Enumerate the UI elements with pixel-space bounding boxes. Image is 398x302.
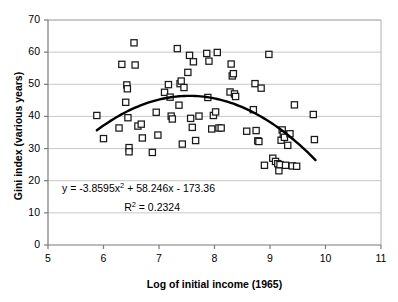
data-point [126, 149, 132, 155]
data-point [176, 102, 182, 108]
data-point [155, 132, 161, 138]
data-point [252, 81, 258, 87]
data-point [213, 109, 219, 115]
data-point [204, 50, 210, 56]
data-point [174, 46, 180, 52]
data-point [285, 142, 291, 148]
data-point [230, 71, 236, 77]
data-point [206, 58, 212, 64]
data-point [258, 85, 264, 91]
data-point [131, 40, 137, 46]
data-point [189, 124, 195, 130]
data-point [153, 109, 159, 115]
data-point [125, 115, 131, 121]
data-point [94, 112, 100, 118]
data-point [185, 69, 191, 75]
data-point [119, 61, 125, 67]
data-point [209, 126, 215, 132]
data-point [138, 121, 144, 127]
data-point [193, 137, 199, 143]
data-point [218, 125, 224, 131]
data-point [214, 49, 220, 55]
data-point [291, 102, 297, 108]
data-point [100, 136, 106, 142]
data-point [256, 138, 262, 144]
data-point [165, 82, 171, 88]
data-point [178, 78, 184, 84]
data-point [139, 135, 145, 141]
scatter-chart: Gini index (various years) Log of initia… [0, 0, 398, 302]
data-point [132, 62, 138, 68]
data-point [116, 125, 122, 131]
data-point [276, 168, 282, 174]
trendline-equation: y = -3.8595x2 + 58.246x - 173.36 [62, 181, 215, 195]
r-squared-value: R2 = 0.2324 [124, 200, 180, 214]
data-point [266, 51, 272, 57]
data-point [124, 86, 130, 92]
data-point [179, 141, 185, 147]
data-point [310, 111, 316, 117]
data-point [123, 99, 129, 105]
data-point [232, 93, 238, 99]
data-point [244, 128, 250, 134]
data-point [282, 162, 288, 168]
data-point [261, 162, 267, 168]
data-point [169, 116, 175, 122]
equation-annotation: y = -3.8595x2 + 58.246x - 173.36 R2 = 0.… [62, 181, 215, 214]
data-point [181, 84, 187, 90]
data-point [253, 127, 259, 133]
data-point [190, 59, 196, 65]
data-point [186, 52, 192, 58]
data-point [196, 113, 202, 119]
data-point [188, 115, 194, 121]
data-point-group [94, 40, 318, 174]
data-point [149, 149, 155, 155]
data-point [294, 163, 300, 169]
data-point [311, 136, 317, 142]
data-point [228, 61, 234, 67]
axis-tick-marks [44, 20, 381, 249]
plot-area: y = -3.8595x2 + 58.246x - 173.36 R2 = 0.… [0, 0, 398, 302]
